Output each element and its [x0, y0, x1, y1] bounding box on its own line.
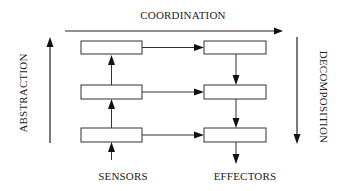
- edge-left-middle-to-right-middle: [142, 89, 204, 96]
- edge-sensors-to-left-bottom: [108, 142, 115, 160]
- abstraction-label: ABSTRACTION: [17, 53, 29, 132]
- decomposition-arrowhead-icon: [294, 134, 301, 144]
- arrowhead-icon: [108, 55, 115, 65]
- edge-left-bottom-to-left-middle: [108, 99, 115, 128]
- coordination-arrowhead-icon: [274, 28, 283, 35]
- arrowhead-icon: [233, 75, 240, 85]
- coordination-label: COORDINATION: [140, 9, 226, 21]
- node-left-middle: [81, 85, 142, 99]
- effectors-label: EFFECTORS: [214, 170, 277, 182]
- edge-right-top-to-right-middle: [233, 54, 240, 85]
- decomposition-label: DECOMPOSITION: [318, 51, 330, 143]
- edge-right-middle-to-right-bottom: [233, 99, 240, 128]
- sensors-label: SENSORS: [98, 170, 148, 182]
- node-right-top: [204, 41, 266, 54]
- coordination-axis: COORDINATION: [65, 9, 283, 35]
- decomposition-axis: DECOMPOSITION: [294, 37, 331, 144]
- edge-right-bottom-to-effectors: [233, 142, 240, 164]
- arrowhead-icon: [233, 118, 240, 128]
- node-right-middle: [204, 85, 266, 99]
- arrowhead-icon: [108, 99, 115, 109]
- arrowhead-icon: [108, 142, 115, 152]
- arrowhead-icon: [233, 154, 240, 164]
- edge-left-top-to-right-top: [142, 44, 204, 51]
- edge-left-bottom-to-right-bottom: [142, 132, 204, 139]
- node-left-bottom: [81, 128, 142, 142]
- arrowhead-icon: [194, 132, 204, 139]
- abstraction-arrowhead-icon: [47, 37, 54, 47]
- arrowhead-icon: [194, 89, 204, 96]
- abstraction-axis: ABSTRACTION: [17, 37, 54, 143]
- node-left-top: [81, 41, 142, 54]
- architecture-diagram: COORDINATION ABSTRACTION DECOMPOSITION: [0, 0, 343, 191]
- node-right-bottom: [204, 128, 266, 142]
- edge-left-middle-to-left-top: [108, 55, 115, 85]
- arrowhead-icon: [194, 44, 204, 51]
